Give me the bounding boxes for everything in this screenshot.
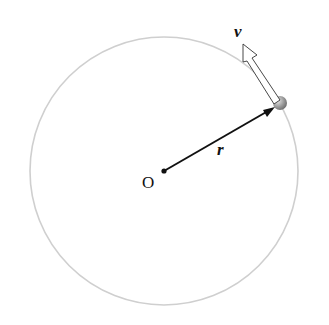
origin-label: O: [142, 173, 154, 193]
velocity-vector-arrow: [243, 44, 280, 104]
circular-motion-diagram: [0, 0, 329, 325]
position-vector-arrow: [164, 107, 275, 171]
position-vector-label: r: [217, 140, 224, 160]
velocity-label: v: [234, 22, 242, 42]
origin-point: [161, 168, 166, 173]
